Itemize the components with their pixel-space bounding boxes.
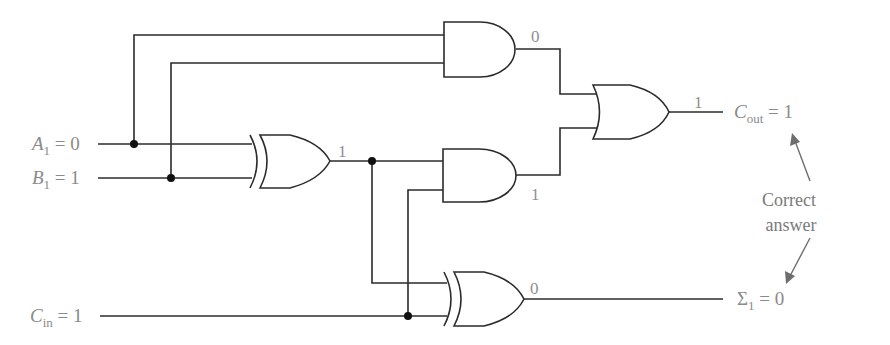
value-xor1-out: 1 [338, 142, 347, 161]
label-cin: Cin = 1 [30, 305, 83, 330]
junction-dot-b1 [167, 174, 175, 182]
xor-gate-1 [260, 135, 330, 188]
wire-and-mid-to-or [516, 128, 598, 175]
label-sum: Σ1 = 0 [737, 288, 784, 313]
value-and-mid-out: 1 [531, 185, 540, 204]
wire-cin-to-and-mid [408, 190, 443, 316]
arrowhead-up-icon [790, 133, 800, 146]
wire-a1-to-and-top [134, 35, 447, 144]
arrowhead-down-icon [785, 271, 795, 284]
xor-gate-2-back-curve [444, 272, 451, 326]
or-gate-cout [593, 85, 669, 139]
value-or-out: 1 [694, 93, 703, 112]
xor-gate-2 [454, 272, 524, 326]
xor-gate-1-back-curve [250, 135, 257, 188]
wire-and-top-to-or [516, 49, 598, 94]
junction-dot-xor1 [368, 157, 376, 165]
arrow-to-cout [795, 141, 810, 181]
value-and-top-out: 0 [531, 27, 540, 46]
label-b1: B1 = 1 [32, 167, 80, 192]
junction-dot-cin [404, 312, 412, 320]
label-a1: A1 = 0 [30, 133, 80, 158]
annotation-line-2: answer [766, 215, 817, 235]
wire-xor1-to-xor2 [372, 161, 447, 283]
and-gate-mid [443, 149, 516, 202]
annotation-line-1: Correct [762, 190, 816, 210]
junction-dot-a1 [130, 140, 138, 148]
value-xor2-out: 0 [530, 279, 539, 298]
and-gate-top [444, 22, 515, 77]
circuit-diagram: A1 = 0 B1 = 1 Cin = 1 Cout = 1 Σ1 = 0 1 … [0, 0, 890, 345]
label-cout: Cout = 1 [734, 101, 793, 126]
arrow-to-sum [790, 238, 810, 276]
